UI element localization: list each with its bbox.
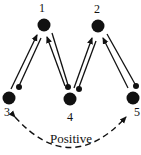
node-label-3: 3 (4, 106, 10, 118)
node-4 (64, 93, 77, 106)
node-5 (127, 92, 140, 105)
node-label-5: 5 (134, 106, 140, 118)
activation-arrow (74, 38, 92, 88)
edge-4-to-1 (47, 33, 71, 90)
ball-stick-dot (65, 84, 71, 90)
network-diagram: 1 2 3 4 5 Positive (0, 0, 141, 155)
activation-arrow (11, 35, 37, 89)
ball-stick-connector (79, 41, 96, 87)
ball-stick-dot (133, 83, 139, 89)
node-2 (92, 20, 105, 33)
ball-stick-dot (76, 86, 82, 92)
node-label-4: 4 (67, 111, 73, 123)
node-1 (38, 19, 51, 32)
feedback-label: Positive (50, 133, 92, 145)
edge-5-to-2 (103, 34, 139, 89)
ball-stick-connector (107, 34, 135, 84)
activation-arrow (103, 38, 128, 88)
node-label-1: 1 (39, 2, 45, 14)
edge-3-to-1 (11, 35, 41, 90)
node-label-2: 2 (94, 3, 100, 15)
ball-stick-connector (19, 38, 41, 86)
ball-stick-dot (16, 84, 22, 90)
edge-4-to-2 (74, 38, 96, 92)
node-3 (3, 92, 16, 105)
